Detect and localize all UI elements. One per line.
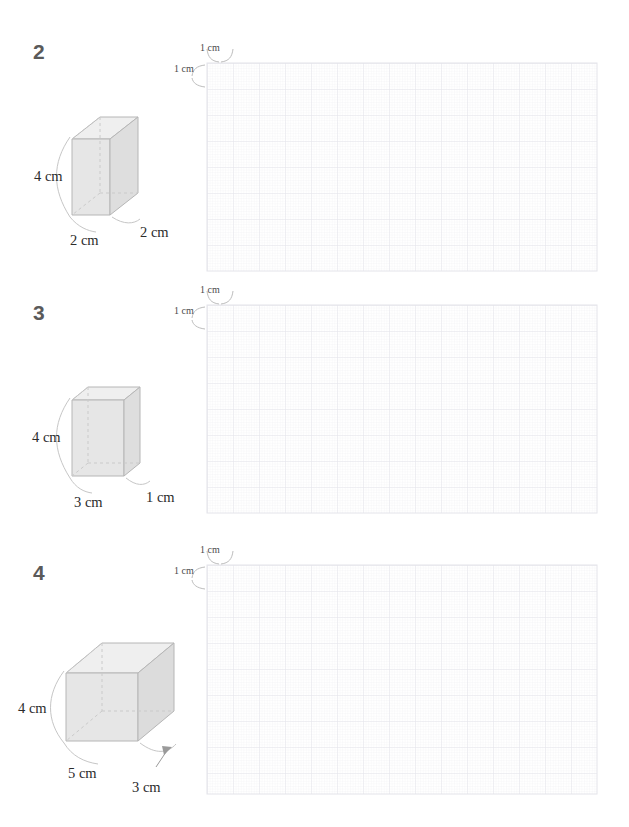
problem-number: 3 (33, 302, 45, 323)
prism-width-label: 2 cm (70, 232, 99, 248)
problem-number: 2 (33, 41, 45, 62)
prism-figure-2: 4 cm 2 cm 2 cm (26, 85, 191, 260)
prism-figure-3: 4 cm 3 cm 1 cm (26, 350, 196, 520)
answer-grid-2[interactable]: 1 cm 1 cm (207, 63, 603, 285)
problem-block-4: 4 4 cm 5 cm (0, 550, 629, 827)
answer-grid-3[interactable]: 1 cm 1 cm (207, 305, 603, 527)
prism-depth-label: 3 cm (132, 779, 161, 795)
prism-height-label: 4 cm (34, 168, 63, 184)
prism-figure-4: 4 cm 5 cm 3 cm (14, 600, 204, 800)
prism-depth-label: 1 cm (146, 489, 175, 505)
grid-label-vertical: 1 cm (174, 64, 194, 74)
grid-label-vertical: 1 cm (174, 306, 194, 316)
prism-height-label: 4 cm (18, 700, 47, 716)
problem-block-3: 3 4 cm 3 cm 1 cm (0, 290, 629, 550)
grid-label-horizontal: 1 cm (200, 43, 220, 53)
prism-width-label: 5 cm (68, 765, 97, 781)
problem-number: 4 (33, 562, 45, 583)
worksheet-page: 2 (0, 0, 629, 827)
grid-label-vertical: 1 cm (174, 566, 194, 576)
grid-label-horizontal: 1 cm (200, 545, 220, 555)
grid-label-horizontal: 1 cm (200, 285, 220, 295)
prism-height-label: 4 cm (32, 429, 61, 445)
answer-grid-4[interactable]: 1 cm 1 cm (207, 565, 603, 805)
prism-depth-label: 2 cm (140, 224, 169, 240)
problem-block-2: 2 (0, 0, 629, 290)
prism-width-label: 3 cm (74, 494, 103, 510)
